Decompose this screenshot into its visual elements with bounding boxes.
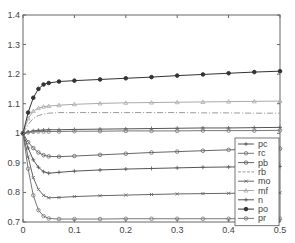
x-tick-label: 0.3 [171,225,184,235]
y-tick-label: 1.2 [7,69,20,79]
y-tick-label: 1.3 [7,40,20,50]
y-tick-label: 1.4 [7,10,20,20]
y-tick-label: 0.9 [7,158,20,168]
legend: pcrcpbrbmomfnpopr [235,138,279,226]
y-tick-label: 1 [15,128,20,138]
line-chart: 0.70.80.911.11.21.31.4 00.10.20.30.40.5 … [0,0,295,243]
legend-label: pr [258,213,266,223]
x-tick-label: 0 [20,225,25,235]
x-tick-label: 0.2 [120,225,133,235]
y-tick-label: 0.8 [7,187,20,197]
x-tick-label: 0.1 [68,225,81,235]
y-tick-label: 0.7 [7,217,20,227]
x-tick-label: 0.4 [222,225,235,235]
y-tick-label: 1.1 [7,99,20,109]
x-tick-label: 0.5 [274,225,287,235]
